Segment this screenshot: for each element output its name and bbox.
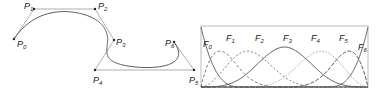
basis-label-5: F5 (339, 33, 349, 44)
basis-function-1 (201, 51, 368, 87)
control-point-0 (13, 38, 15, 40)
control-point-5 (193, 69, 195, 71)
basis-function-4 (201, 51, 368, 87)
basis-functions-chart: F0F1F2F3F4F5F6 (201, 26, 368, 87)
bspline-figure: P0P1P2P3P4P5P6 F0F1F2F3F4F5F6 (0, 0, 383, 92)
basis-label-4: F4 (311, 33, 321, 44)
basis-label-6: F6 (358, 42, 368, 53)
control-point-label-0: P0 (17, 39, 27, 50)
basis-label-2: F2 (255, 33, 265, 44)
control-point-3 (113, 39, 115, 41)
control-point-label-5: P5 (189, 75, 199, 86)
basis-label-3: F3 (283, 33, 293, 44)
basis-function-2 (201, 51, 368, 87)
control-point-2 (94, 8, 96, 10)
control-point-label-6: P6 (165, 38, 175, 49)
bspline-curve (14, 12, 179, 68)
control-point-label-2: P2 (98, 1, 108, 12)
bspline-curve-diagram: P0P1P2P3P4P5P6 (13, 1, 199, 86)
control-point-label-1: P1 (24, 1, 33, 12)
control-point-label-3: P3 (116, 37, 126, 48)
basis-function-5 (201, 51, 368, 87)
control-point-4 (94, 69, 96, 71)
basis-label-1: F1 (226, 33, 235, 44)
basis-label-0: F0 (203, 39, 213, 50)
control-point-label-4: P4 (93, 75, 103, 86)
